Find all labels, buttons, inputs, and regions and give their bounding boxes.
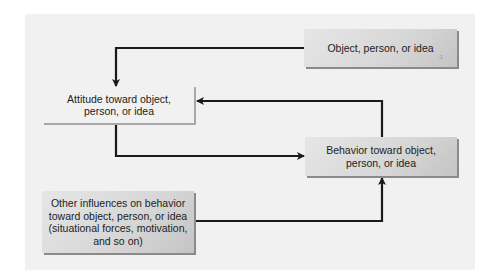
- node-label: Other influences on behavior toward obje…: [49, 197, 188, 247]
- node-attitude: Attitude toward object, person, or idea: [44, 87, 196, 125]
- node-behavior: Behavior toward object, person, or idea: [305, 137, 457, 176]
- node-label: Object, person, or idea: [327, 42, 433, 55]
- node-object-person-idea: Object, person, or idea -1: [304, 29, 457, 67]
- node-other-influences: Other influences on behavior toward obje…: [42, 191, 194, 253]
- node-label: Behavior toward object, person, or idea: [326, 144, 436, 169]
- node-tag: -1: [438, 51, 443, 64]
- node-label: Attitude toward object, person, or idea: [67, 93, 171, 118]
